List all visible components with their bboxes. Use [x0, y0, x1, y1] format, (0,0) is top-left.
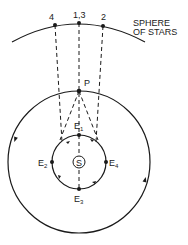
parallax-diagram: P S 4 1,3 2 SPHERE OF STARS E1 E2 E3 E4 — [0, 0, 188, 245]
sun-label: S — [76, 158, 82, 168]
earth-label-4: E4 — [109, 158, 119, 169]
earth-point-3 — [77, 187, 81, 191]
earth-label-2: E2 — [38, 158, 48, 169]
earth-label-3: E3 — [74, 194, 84, 205]
planet-label: P — [84, 78, 90, 88]
sphere-label-line2: OF STARS — [133, 27, 177, 37]
orbit-arrow-left-icon — [12, 136, 17, 142]
star-label-2: 2 — [101, 12, 106, 22]
star-label-1-3: 1,3 — [73, 10, 86, 20]
earth-label-1: E1 — [74, 121, 84, 132]
earth-point-2 — [50, 160, 54, 164]
planet-point — [77, 89, 82, 94]
star-label-4: 4 — [49, 12, 54, 22]
earth-point-4 — [104, 160, 108, 164]
earth-point-1 — [77, 133, 81, 137]
